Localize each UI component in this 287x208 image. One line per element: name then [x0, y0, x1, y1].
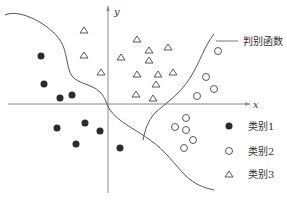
diagram-canvas: x y 判别函数 类别1 类别2 类别3 [0, 0, 287, 208]
class3-point [133, 71, 141, 77]
class3-point [80, 27, 88, 33]
class3-point [164, 44, 172, 50]
class1-point [82, 120, 89, 127]
class3-point [145, 47, 153, 53]
discriminant-label: 判别函数 [243, 35, 283, 47]
legend-class1-marker-icon [226, 123, 233, 130]
legend-class3-label: 类别3 [248, 168, 274, 180]
class1-point [54, 125, 61, 132]
class2-point [215, 48, 222, 55]
class1-point [97, 128, 104, 135]
discriminant-curve-1 [5, 13, 214, 190]
class3-point [117, 54, 125, 60]
discriminant-diagram: x y 判别函数 类别1 类别2 类别3 [0, 0, 287, 208]
class3-point [145, 57, 153, 63]
class3-point [169, 69, 177, 75]
legend-class2-marker-icon [226, 148, 233, 155]
legend-class3-marker-icon [225, 171, 233, 177]
legend: 类别1 类别2 类别3 [225, 120, 274, 180]
class1-point [73, 141, 80, 148]
class1-point [41, 81, 48, 88]
class3-point [132, 91, 140, 97]
class2-point [203, 74, 210, 81]
y-axis-label: y [113, 6, 120, 17]
class2-point [172, 124, 179, 131]
class2-point [194, 93, 201, 100]
class3-point [152, 81, 160, 87]
class3-point [133, 36, 141, 42]
class3-point [80, 52, 88, 58]
legend-class1-label: 类别1 [248, 120, 274, 132]
class3-point [97, 69, 105, 75]
class1-point [117, 145, 124, 152]
x-axis-label: x [253, 99, 259, 110]
class1-points [38, 53, 124, 152]
class2-point [190, 137, 197, 144]
class2-point [181, 145, 188, 152]
class3-point [149, 95, 157, 101]
class1-point [69, 92, 76, 99]
class2-points [172, 48, 222, 152]
class3-points [80, 27, 177, 101]
class1-point [38, 53, 45, 60]
legend-class2-label: 类别2 [248, 145, 274, 157]
class2-point [183, 127, 190, 134]
class3-point [154, 71, 162, 77]
class2-point [211, 86, 218, 93]
class2-point [183, 115, 190, 122]
class1-point [57, 95, 64, 102]
